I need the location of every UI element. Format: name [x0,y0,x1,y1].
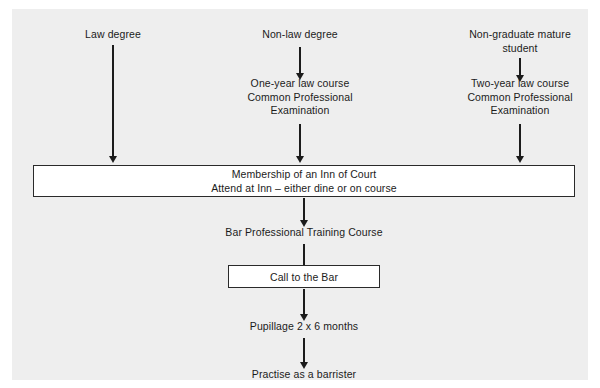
arrow-mature-student-to-course [519,58,521,75]
arrow-bptc-to-call [303,244,305,266]
arrow-course-to-inn [299,124,301,156]
inn-box-line-1: Membership of an Inn of Court [232,167,377,181]
arrow-call-to-pupillage [303,289,305,314]
box-call-to-the-bar: Call to the Bar [228,265,380,288]
node-two-year-law-course: Two-year law course Common Professional … [455,77,585,118]
node-bar-professional-training-course: Bar Professional Training Course [204,226,404,240]
inn-box-line-2: Attend at Inn – either dine or on course [211,181,397,195]
node-non-graduate-mature-student: Non-graduate mature student [455,28,585,55]
box-membership-inn-of-court: Membership of an Inn of Court Attend at … [33,165,575,197]
call-to-the-bar-label: Call to the Bar [270,270,338,284]
arrow-two-year-course-to-inn [519,124,521,156]
arrow-non-law-degree-to-course [299,47,301,73]
arrow-inn-to-bptc [303,198,305,220]
node-practise-as-a-barrister: Practise as a barrister [229,368,379,382]
arrow-pupillage-to-practise [303,338,305,362]
node-pupillage: Pupillage 2 x 6 months [234,320,374,334]
node-law-degree: Law degree [53,28,173,42]
node-one-year-law-course: One-year law course Common Professional … [235,77,365,118]
node-non-law-degree: Non-law degree [240,28,360,42]
arrow-law-degree-to-inn [112,45,114,156]
flowchart-canvas: Law degree Non-law degree One-year law c… [12,9,588,380]
